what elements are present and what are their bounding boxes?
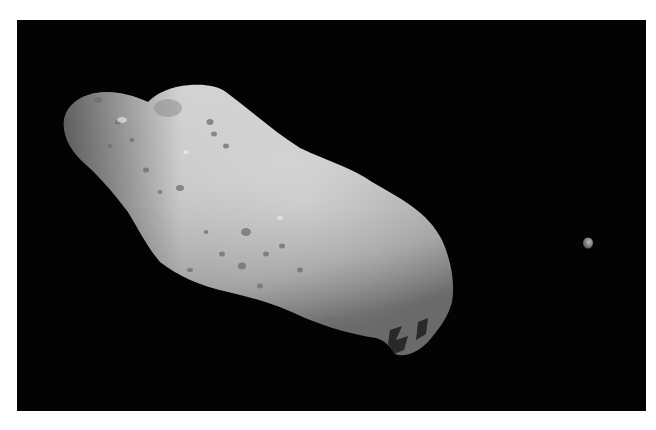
asteroid (64, 85, 453, 355)
space-scene (0, 0, 656, 430)
moon (583, 238, 593, 249)
